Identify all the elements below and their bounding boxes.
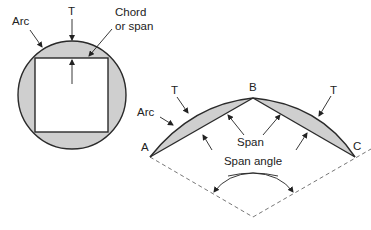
arrow-thickness-ab-inner: [203, 135, 212, 150]
label-thickness-bc: T: [330, 84, 337, 96]
label-arc-right: Arc: [137, 106, 155, 118]
diagram-canvas: Arc T Chord or span A B: [0, 0, 371, 230]
arrow-span-right: [263, 115, 280, 135]
arrow-thickness-ab-outer: [177, 97, 188, 113]
label-thickness-ab: T: [171, 84, 178, 96]
span-angle-arrow-left: [214, 173, 253, 192]
label-span-angle: Span angle: [224, 155, 282, 167]
label-point-c: C: [353, 140, 361, 152]
label-span: Span: [237, 136, 264, 148]
inscribed-square: [35, 58, 108, 132]
circle-figure: Arc T Chord or span: [12, 5, 153, 149]
diagram-svg: Arc T Chord or span A B: [0, 0, 371, 230]
label-arc-left: Arc: [12, 15, 30, 27]
arrow-thickness-bc-inner: [296, 133, 307, 150]
chord-bc: [253, 98, 355, 157]
label-chord-line1: Chord: [115, 6, 146, 18]
arrow-thickness-bc-outer: [319, 96, 331, 116]
span-figure: A B C T Arc Span T Span angle: [137, 81, 371, 217]
label-point-a: A: [141, 141, 149, 153]
arrow-span-left: [228, 115, 244, 135]
arrow-arc-right: [160, 117, 173, 125]
label-chord-line2: or span: [115, 20, 153, 32]
arrow-arc-left: [30, 30, 42, 47]
span-angle-arrow-right: [253, 173, 293, 192]
label-thickness-left: T: [68, 5, 75, 17]
label-point-b: B: [249, 81, 257, 93]
